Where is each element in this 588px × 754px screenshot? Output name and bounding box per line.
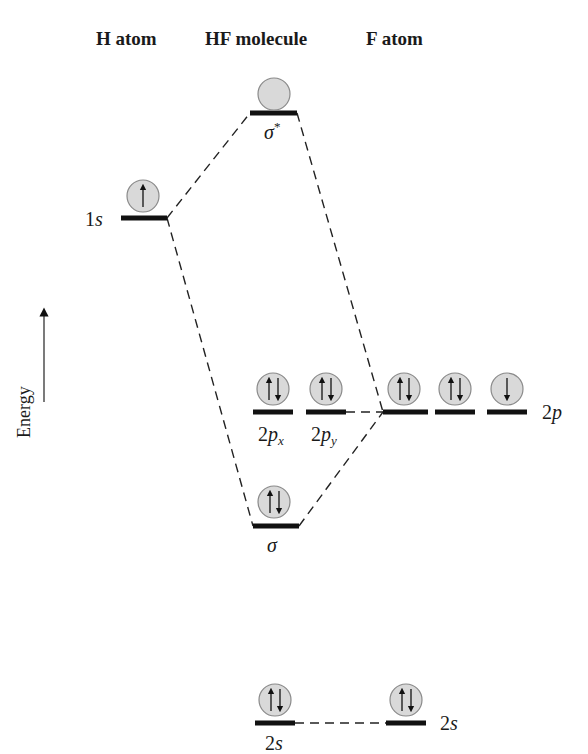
mo-diagram bbox=[0, 0, 588, 754]
label-f-2s: 2s bbox=[440, 713, 458, 733]
orbital-sigma-icon bbox=[258, 486, 290, 518]
label-hf-2py: 2py bbox=[311, 424, 337, 447]
label-hf-2px-orb: p bbox=[268, 423, 278, 445]
label-hf-2px-sub: x bbox=[278, 433, 284, 448]
label-sigma-star: σ* bbox=[264, 120, 280, 142]
dash-h1s-to-sigma bbox=[167, 218, 253, 526]
energy-axis-label: Energy bbox=[14, 386, 35, 438]
label-hf-2px: 2px bbox=[258, 424, 284, 447]
label-hf-2px-num: 2 bbox=[258, 423, 268, 445]
orbital-f-2p-2-icon bbox=[439, 373, 471, 405]
label-hf-2py-orb: p bbox=[321, 423, 331, 445]
orbital-f-2p-1-icon bbox=[388, 373, 420, 405]
header-hf-molecule: HF molecule bbox=[205, 28, 307, 50]
label-h-1s: 1s bbox=[85, 209, 103, 229]
label-hf-2py-sub: y bbox=[331, 433, 337, 448]
orbital-f-2s-icon bbox=[390, 684, 422, 716]
orbital-hf-2py-icon bbox=[310, 373, 342, 405]
label-hf-2s: 2s bbox=[265, 733, 283, 753]
label-sigma-star-sup: * bbox=[274, 119, 281, 134]
dash-sigma-star-to-f2p bbox=[297, 113, 383, 412]
dash-h1s-to-sigma-star bbox=[167, 113, 250, 218]
label-h-1s-orb: s bbox=[95, 208, 103, 230]
label-f-2s-num: 2 bbox=[440, 712, 450, 734]
label-f-2p-num: 2 bbox=[542, 401, 552, 423]
label-hf-2s-num: 2 bbox=[265, 732, 275, 754]
orbital-hf-2s-icon bbox=[259, 684, 291, 716]
header-f-atom: F atom bbox=[366, 28, 423, 50]
label-f-2s-orb: s bbox=[450, 712, 458, 734]
label-hf-2py-num: 2 bbox=[311, 423, 321, 445]
label-h-1s-num: 1 bbox=[85, 208, 95, 230]
correlation-lines bbox=[167, 113, 386, 723]
header-h-atom: H atom bbox=[96, 28, 157, 50]
label-sigma: σ bbox=[267, 535, 277, 555]
label-hf-2s-orb: s bbox=[275, 732, 283, 754]
orbital-sigma-star-icon bbox=[258, 78, 290, 110]
label-f-2p-orb: p bbox=[552, 401, 562, 423]
orbital-hf-2px-icon bbox=[257, 373, 289, 405]
label-f-2p: 2p bbox=[542, 402, 562, 422]
label-sigma-star-symbol: σ bbox=[264, 121, 274, 143]
